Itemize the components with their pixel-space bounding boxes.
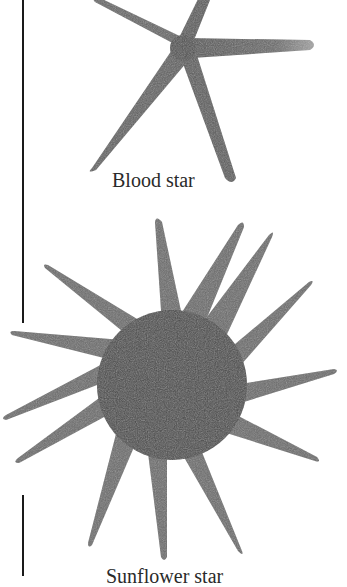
- caption-sunflower-star: Sunflower star: [106, 565, 223, 587]
- blood-star-figure: [90, 0, 314, 182]
- caption-blood-star: Blood star: [112, 169, 195, 192]
- sunflower-star-figure: [3, 219, 337, 561]
